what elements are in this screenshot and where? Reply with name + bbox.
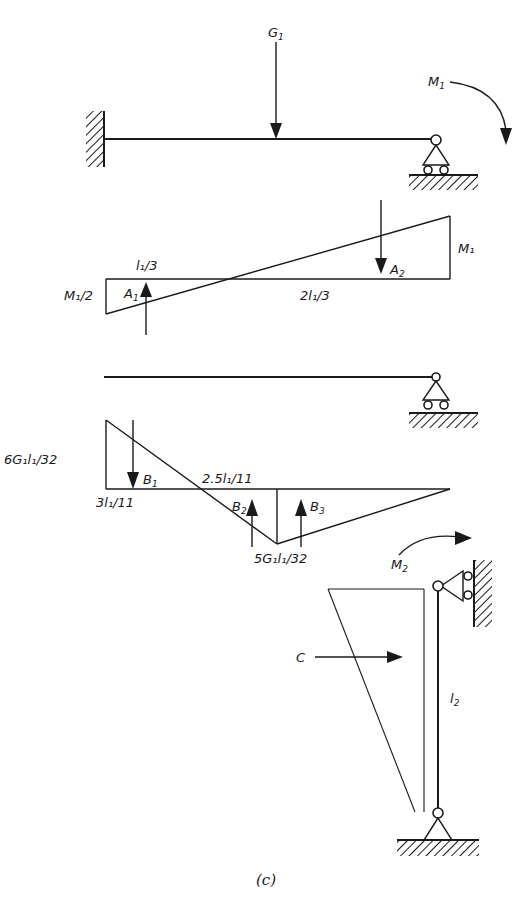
moment-2-arc-icon [399, 536, 460, 555]
wall-hatch [474, 560, 492, 627]
x1-label: 3l₁/11 [96, 495, 134, 510]
b1-arrow-head-icon [127, 472, 139, 489]
a2-arrow-head-icon [375, 258, 387, 274]
length-label: l2 [450, 691, 460, 708]
moment-2-arrow-head-icon [455, 531, 472, 545]
moment-diagram-b: B1 B2 B3 6G₁l₁/32 3l₁/11 2.5l₁/11 5G₁l₁/… [4, 420, 450, 566]
beam-2 [104, 373, 478, 428]
beam-1: G1 M1 [86, 25, 512, 190]
b1-label: B1 [143, 472, 158, 489]
bottom-value-label: 5G₁l₁/32 [254, 551, 307, 566]
left-value-label: 6G₁l₁/32 [4, 452, 57, 467]
load-arrow-head-icon [270, 123, 282, 139]
pin-support [397, 808, 479, 856]
load-label: G1 [268, 25, 284, 42]
fixed-support-hatch [86, 111, 104, 167]
b2-arrow-head-icon [246, 499, 258, 516]
x2-label: 2.5l₁/11 [202, 471, 252, 486]
c-label: C [296, 650, 306, 665]
column: M2 C l2 [296, 531, 492, 856]
segment-left-label: l₁/3 [136, 258, 157, 273]
left-value-label: M₁/2 [64, 288, 93, 303]
right-value-label: M₁ [458, 241, 474, 256]
b2-label: B2 [232, 499, 247, 516]
structural-diagram: G1 M1 A2 A1 l₁/3 2l₁/3 [0, 0, 530, 910]
moment-2-label: M2 [391, 557, 408, 574]
a1-arrow-head-icon [140, 282, 152, 297]
b3-label: B3 [310, 499, 325, 516]
roller-support-2 [409, 373, 478, 428]
moment-diagram-a: A2 A1 l₁/3 2l₁/3 M₁/2 M₁ [64, 200, 474, 335]
c-arrow-head-icon [387, 651, 403, 663]
figure-caption: (c) [256, 871, 276, 889]
a1-label: A1 [123, 286, 139, 303]
b3-arrow-head-icon [295, 499, 307, 516]
moment-arrow-head-icon [500, 128, 512, 145]
a2-label: A2 [389, 262, 405, 279]
moment-arc-icon [450, 82, 506, 130]
moment-label: M1 [428, 74, 445, 91]
segment-right-label: 2l₁/3 [300, 288, 330, 303]
roller-support-1 [409, 135, 478, 190]
